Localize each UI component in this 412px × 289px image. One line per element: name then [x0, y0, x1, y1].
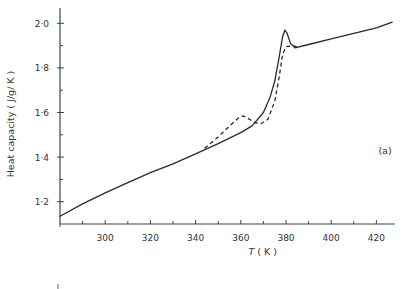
- x-tick-label: 340: [187, 233, 204, 243]
- axes: 3003203403603804004201·21·41·61·82·0: [35, 8, 395, 243]
- x-tick-label: 300: [97, 233, 114, 243]
- x-tick-label: 420: [368, 233, 385, 243]
- y-tick-label: 1·4: [35, 153, 50, 163]
- x-tick-label: 320: [142, 233, 159, 243]
- y-tick-label: 1·8: [35, 63, 50, 73]
- x-tick-label: 400: [323, 233, 340, 243]
- series-group: [60, 22, 392, 216]
- x-tick-label: 380: [277, 233, 294, 243]
- labels: T( K )Heat capacity ( J/g/ K )(a): [5, 71, 392, 257]
- series-solid-line: [60, 22, 392, 216]
- panel-label: (a): [378, 145, 391, 156]
- y-tick-label: 1·2: [35, 197, 49, 207]
- y-tick-label: 2·0: [35, 19, 50, 29]
- heat-capacity-chart: 3003203403603804004201·21·41·61·82·0 T( …: [0, 0, 412, 289]
- y-axis-title: Heat capacity ( J/g/ K ): [5, 71, 16, 178]
- x-axis-title: T( K ): [249, 246, 278, 257]
- series-dashed-line: [205, 46, 300, 149]
- y-tick-label: 1·6: [35, 108, 50, 118]
- x-tick-label: 360: [232, 233, 249, 243]
